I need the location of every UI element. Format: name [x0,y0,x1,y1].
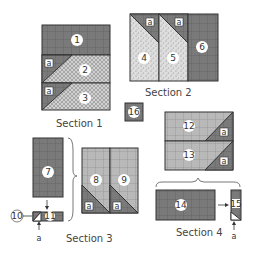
corner-label: a [148,18,153,27]
piece-number: 10 [11,211,23,221]
piece-number: 15 [230,199,241,209]
section-2-label: Section 2 [145,87,192,98]
piece-number: 13 [183,150,194,160]
piece-number: 1 [74,35,80,45]
piece-12-13-unit: 12 13 a a [165,112,233,170]
piece-number: 6 [199,42,205,52]
piece-number: 8 [93,175,99,185]
piece-16: 16 [125,103,143,121]
piece-number: 12 [183,121,194,131]
section-4-label: Section 4 [176,227,223,238]
corner-label: a [222,157,227,166]
section-3: 7 10 11 a 8 9 a a Section 3 [11,138,138,244]
section-1: 1 2 3 a a Section 1 [42,25,110,129]
brace [156,178,240,187]
section-2: 4 5 6 a a Section 2 [130,14,218,98]
piece-number: 7 [45,167,51,177]
brace [68,138,77,221]
piece-number: 2 [82,65,88,75]
piece-number: 5 [170,53,176,63]
corner-label: a [232,232,237,241]
quilt-assembly-diagram: 1 2 3 a a Section 1 4 5 6 a a Section 2 … [0,0,253,256]
corner-label: a [115,202,120,211]
section-4: 14 15 a Section 4 [156,178,242,241]
corner-label: a [87,202,92,211]
corner-label: a [47,87,52,96]
section-3-label: Section 3 [66,233,113,244]
piece-number: 3 [82,93,88,103]
corner-label: a [37,234,42,243]
piece-number: 11 [44,211,55,221]
corner-label: a [47,59,52,68]
piece-number: 16 [128,107,140,117]
corner-label: a [177,18,182,27]
corner-label: a [222,128,227,137]
section-1-label: Section 1 [56,118,103,129]
piece-number: 4 [141,53,147,63]
piece-number: 9 [121,175,127,185]
piece-number: 14 [175,200,187,210]
